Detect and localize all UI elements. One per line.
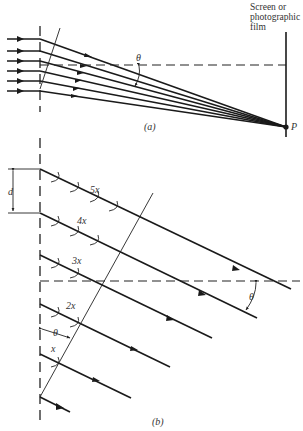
- diffracted-rays: [40, 39, 286, 127]
- point-label-p: P: [290, 121, 297, 132]
- angle-arc-a: [135, 66, 140, 86]
- screen-label-line3: film: [250, 22, 266, 32]
- path-label-x: x: [50, 343, 56, 354]
- caption-a: (a): [144, 121, 156, 133]
- focal-point-p: [283, 124, 288, 129]
- diffraction-grating-diagram: θ P Screen or photographic film (a) d: [0, 0, 303, 431]
- figure-b: d: [8, 138, 300, 428]
- figure-a: θ P Screen or photographic film (a): [7, 2, 300, 137]
- angle-label-left: θ: [53, 327, 58, 338]
- screen-label-line2: photographic: [250, 12, 300, 22]
- path-label-2x: 2x: [66, 300, 76, 311]
- angle-label-right: θ: [249, 291, 254, 302]
- path-label-3x: 3x: [71, 255, 82, 266]
- wavefront-line-a: [40, 28, 60, 89]
- caption-b: (b): [152, 416, 164, 428]
- path-label-5x: 5x: [90, 184, 100, 195]
- angle-label-a: θ: [136, 52, 141, 63]
- path-label-4x: 4x: [77, 215, 87, 226]
- incoming-rays: [7, 36, 40, 94]
- screen-label-line1: Screen or: [250, 2, 287, 12]
